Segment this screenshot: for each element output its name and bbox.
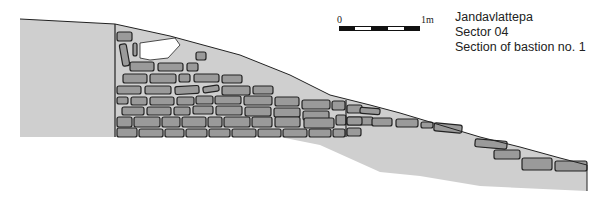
stone [258, 129, 281, 137]
stone [133, 43, 137, 56]
stone [275, 117, 300, 127]
scale-start-label: 0 [337, 14, 342, 25]
scale-segment [339, 26, 355, 31]
stone [194, 74, 219, 82]
stone [302, 100, 330, 109]
stone [196, 52, 206, 60]
stone [555, 161, 587, 171]
stone [372, 118, 392, 126]
stone [123, 74, 147, 83]
stone [522, 158, 552, 170]
scale-segment [404, 26, 420, 31]
stone [158, 63, 183, 71]
stone [134, 117, 160, 127]
stone [150, 74, 176, 83]
stone [177, 97, 194, 105]
stone [253, 86, 273, 94]
stone [182, 117, 206, 127]
stone [275, 97, 299, 106]
scale-segment [355, 26, 371, 31]
stone [150, 97, 174, 105]
stone [186, 129, 207, 137]
stone [347, 128, 361, 136]
stone [147, 107, 171, 115]
stone [421, 122, 433, 128]
stone [245, 107, 271, 116]
sector-label: Sector 04 [455, 25, 586, 40]
stone [179, 74, 190, 82]
stone [274, 108, 300, 117]
stone [175, 85, 199, 94]
stone [174, 107, 190, 115]
stone [347, 117, 362, 125]
stone [131, 97, 147, 105]
scale-bar: 0 1m [337, 14, 427, 34]
stone [494, 150, 520, 159]
stone [117, 32, 132, 41]
stone [396, 119, 418, 127]
left-wall-block [20, 19, 115, 137]
stone [139, 129, 163, 137]
stone [208, 117, 222, 127]
stone [283, 129, 307, 137]
stone [309, 129, 331, 137]
stone [117, 86, 141, 94]
scale-bar-segments [339, 26, 420, 31]
stone [122, 107, 144, 115]
stone [232, 129, 256, 137]
stone [333, 129, 345, 137]
stone [216, 106, 242, 115]
stone [224, 117, 250, 127]
site-name: Jandavlattepa [455, 10, 586, 25]
stone [187, 63, 198, 71]
stone [117, 128, 137, 137]
stone [332, 101, 345, 110]
stone [222, 86, 250, 95]
stone [215, 96, 241, 104]
stone [252, 117, 272, 127]
stone [209, 129, 230, 137]
section-label: Section of bastion no. 1 [455, 40, 586, 55]
stone [336, 115, 346, 125]
stone [130, 62, 154, 71]
title-block: Jandavlattepa Sector 04 Section of basti… [455, 10, 586, 55]
stone [193, 106, 213, 114]
stone [117, 117, 132, 127]
stone [360, 107, 380, 115]
stone [165, 129, 184, 137]
scale-segment [388, 26, 404, 31]
stone [196, 96, 213, 104]
stone [304, 118, 334, 128]
scale-end-label: 1m [421, 14, 434, 25]
stone [162, 117, 180, 127]
stone [222, 75, 242, 83]
scale-segment [371, 26, 387, 31]
stone [145, 86, 171, 94]
stone [117, 97, 128, 104]
stone [244, 96, 272, 105]
